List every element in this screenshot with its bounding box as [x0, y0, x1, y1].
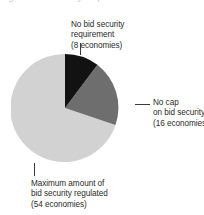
slice-label-line-2: requirement [71, 30, 124, 40]
slice-label-line-2: bid security regulated [31, 189, 108, 199]
pie-chart-figure: Figure Bid security requirements No bid … [0, 0, 204, 215]
pie-chart-graphic [11, 54, 119, 162]
cropped-figure-title: Figure Bid security requirements [0, 0, 204, 3]
slice-label-count: (8 economies) [71, 41, 124, 51]
slice-label-line-2: on bid security [153, 108, 204, 118]
slice-label-line-1: Maximum amount of [31, 179, 108, 189]
slice-label-count: (16 economies) [153, 119, 204, 129]
slice-label-line-1: No bid security [71, 20, 124, 30]
leader-line-no-cap [135, 104, 150, 105]
slice-label-line-1: No cap [153, 98, 204, 108]
slice-label-no-requirement: No bid security requirement (8 economies… [71, 20, 124, 51]
slice-label-count: (54 economies) [31, 200, 108, 210]
leader-line-maximum-amount [34, 163, 35, 176]
slice-label-maximum-amount: Maximum amount of bid security regulated… [31, 179, 108, 210]
pie-svg [11, 54, 119, 162]
slice-label-no-cap: No cap on bid security (16 economies) [153, 98, 204, 129]
